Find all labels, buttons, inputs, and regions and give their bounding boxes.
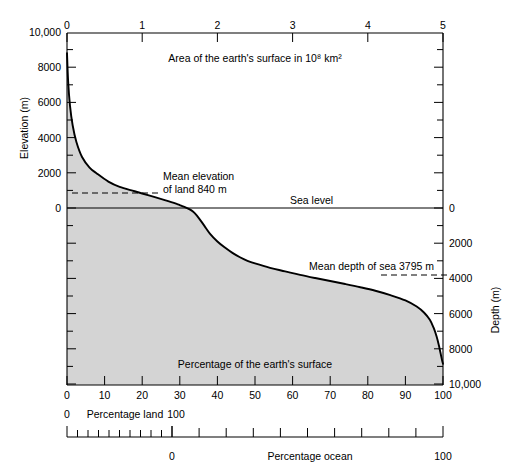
chart-svg: 012345 10,00080006000400020000 020004000… — [0, 0, 511, 470]
axis-tick-label: 0 — [64, 389, 70, 401]
land-axis-hundred-label: 100 — [167, 408, 185, 420]
axis-tick-label: 1 — [139, 19, 145, 31]
land-axis-title: Percentage land — [87, 408, 164, 420]
axis-tick-label: 10,000 — [449, 378, 481, 390]
axis-tick-label: 6000 — [38, 96, 62, 108]
axis-tick-label: 10,000 — [29, 26, 61, 38]
axis-tick-label: 0 — [55, 202, 61, 214]
axis-tick-label: 0 — [449, 202, 455, 214]
percentage-of-surface-label: Percentage of the earth's surface — [178, 358, 333, 370]
axis-tick-label: 50 — [249, 389, 261, 401]
ocean-axis-zero-label: 0 — [169, 450, 175, 462]
ocean-axis-title: Percentage ocean — [267, 450, 352, 462]
top-axis-title: Area of the earth's surface in 10⁸ km² — [168, 52, 342, 64]
axis-tick-label: 8000 — [449, 343, 473, 355]
mean-elevation-label-line1: Mean elevation — [163, 170, 234, 182]
axis-tick-label: 60 — [287, 389, 299, 401]
left-axis-title: Elevation (m) — [18, 97, 30, 159]
land-axis-zero-label: 0 — [64, 408, 70, 420]
hypsographic-curve-figure: 012345 10,00080006000400020000 020004000… — [0, 0, 511, 470]
axis-tick-label: 5 — [440, 19, 446, 31]
axis-tick-label: 4000 — [449, 272, 473, 284]
axis-tick-label: 10 — [99, 389, 111, 401]
axis-tick-label: 3 — [290, 19, 296, 31]
axis-tick-label: 80 — [362, 389, 374, 401]
mean-elevation-label-line2: of land 840 m — [163, 183, 227, 195]
axis-tick-label: 30 — [174, 389, 186, 401]
axis-tick-label: 2 — [214, 19, 220, 31]
axis-tick-label: 2000 — [38, 167, 62, 179]
ocean-axis-hundred-label: 100 — [434, 450, 452, 462]
axis-tick-label: 40 — [212, 389, 224, 401]
sea-level-label: Sea level — [290, 194, 333, 206]
mean-depth-label: Mean depth of sea 3795 m — [309, 260, 434, 272]
axis-tick-label: 2000 — [449, 237, 473, 249]
axis-tick-label: 0 — [64, 19, 70, 31]
axis-tick-label: 20 — [136, 389, 148, 401]
axis-tick-label: 4 — [365, 19, 371, 31]
axis-tick-label: 6000 — [449, 308, 473, 320]
axis-tick-label: 70 — [324, 389, 336, 401]
axis-tick-label: 100 — [434, 389, 452, 401]
axis-tick-label: 8000 — [38, 61, 62, 73]
axis-tick-label: 90 — [400, 389, 412, 401]
axis-tick-label: 4000 — [38, 132, 62, 144]
right-axis-title: Depth (m) — [489, 287, 501, 334]
